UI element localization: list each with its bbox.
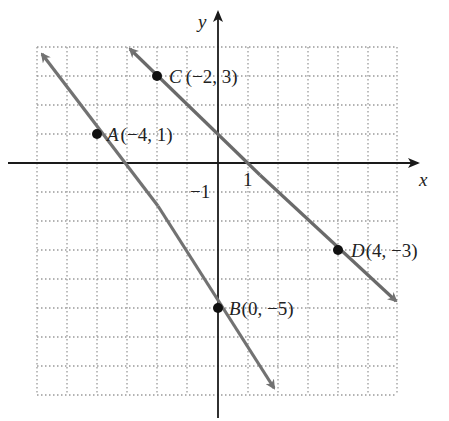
label-c: C(−2, 3) <box>169 66 238 88</box>
point-a <box>92 129 102 139</box>
x-axis-label: x <box>418 169 428 190</box>
label-a: A(−4, 1) <box>105 124 172 146</box>
point-c <box>152 71 162 81</box>
point-d <box>333 245 343 255</box>
label-d: D(4, −3) <box>350 240 418 262</box>
point-b <box>213 303 223 313</box>
x-tick-1: 1 <box>243 169 253 190</box>
y-axis-label: y <box>196 11 207 32</box>
coordinate-plane: x y 1 −1 A(−4, 1) B(0, −5) C(−2, 3) D(4,… <box>0 0 449 421</box>
y-tick-minus-1: −1 <box>190 181 210 202</box>
grid <box>37 47 397 395</box>
label-b: B(0, −5) <box>229 298 293 320</box>
